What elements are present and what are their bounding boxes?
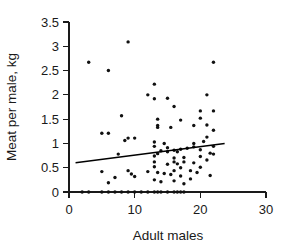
data-point xyxy=(172,156,175,159)
data-point xyxy=(208,151,211,154)
data-point xyxy=(133,190,136,193)
data-point xyxy=(156,126,159,129)
y-tick-label: 1.5 xyxy=(41,112,59,127)
data-point xyxy=(199,155,202,158)
data-point xyxy=(107,181,110,184)
data-point xyxy=(182,182,185,185)
data-point xyxy=(192,124,195,127)
data-point xyxy=(192,142,195,145)
data-point xyxy=(126,136,129,139)
scatter-chart-figure: 00.511.522.533.5 0102030 Adult males Mea… xyxy=(0,0,288,251)
data-point xyxy=(153,154,156,157)
data-point xyxy=(192,161,195,164)
data-point xyxy=(100,190,103,193)
x-tick-label: 10 xyxy=(127,202,141,217)
data-point xyxy=(176,190,179,193)
data-point xyxy=(107,69,110,72)
data-point xyxy=(179,118,182,121)
data-point xyxy=(126,40,129,43)
data-point xyxy=(166,146,169,149)
data-point xyxy=(212,152,215,155)
data-point xyxy=(179,174,182,177)
data-point xyxy=(130,172,133,175)
data-point xyxy=(100,170,103,173)
data-point xyxy=(189,177,192,180)
data-point xyxy=(153,160,156,163)
data-point xyxy=(146,170,149,173)
data-point xyxy=(189,169,192,172)
data-point xyxy=(133,136,136,139)
y-tick-label: 3.5 xyxy=(41,15,59,30)
data-point xyxy=(120,114,123,117)
data-point xyxy=(166,190,169,193)
data-point xyxy=(202,140,205,143)
data-point xyxy=(153,165,156,168)
data-point xyxy=(153,190,156,193)
data-point xyxy=(126,190,129,193)
data-point xyxy=(126,169,129,172)
data-point xyxy=(146,93,149,96)
y-tick-label: 2.5 xyxy=(41,63,59,78)
data-point xyxy=(156,117,159,120)
data-point xyxy=(166,97,169,100)
data-point xyxy=(153,97,156,100)
data-point xyxy=(107,132,110,135)
data-point xyxy=(179,166,182,169)
data-point xyxy=(176,162,179,165)
data-point xyxy=(172,169,175,172)
y-tick-group: 00.511.522.533.5 xyxy=(41,15,69,200)
data-point xyxy=(123,139,126,142)
data-point xyxy=(205,135,208,138)
data-point xyxy=(205,93,208,96)
data-point xyxy=(199,116,202,119)
data-point xyxy=(140,190,143,193)
data-point xyxy=(195,171,198,174)
data-point xyxy=(100,132,103,135)
data-point xyxy=(199,148,202,151)
data-point xyxy=(169,173,172,176)
y-tick-label: 0 xyxy=(52,185,59,200)
data-point xyxy=(172,105,175,108)
data-point xyxy=(172,179,175,182)
data-point xyxy=(212,129,215,132)
y-tick-label: 3 xyxy=(52,39,59,54)
data-point xyxy=(212,61,215,64)
data-point xyxy=(166,163,169,166)
data-point xyxy=(153,140,156,143)
data-point xyxy=(179,190,182,193)
data-point xyxy=(169,126,172,129)
data-point xyxy=(163,172,166,175)
x-axis-group: 0102030 xyxy=(65,192,273,217)
data-point xyxy=(133,175,136,178)
data-point xyxy=(156,190,159,193)
data-point xyxy=(199,166,202,169)
data-point xyxy=(146,190,149,193)
x-tick-group: 0102030 xyxy=(65,192,273,217)
data-point xyxy=(80,190,83,193)
y-tick-label: 1 xyxy=(52,136,59,151)
data-point xyxy=(205,123,208,126)
data-point xyxy=(117,152,120,155)
x-tick-label: 20 xyxy=(193,202,207,217)
data-point xyxy=(159,190,162,193)
data-point xyxy=(172,160,175,163)
data-point xyxy=(87,190,90,193)
data-point xyxy=(153,178,156,181)
data-point xyxy=(153,82,156,85)
data-point xyxy=(107,190,110,193)
y-tick-label: 0.5 xyxy=(41,160,59,175)
data-point xyxy=(182,156,185,159)
data-point xyxy=(208,174,211,177)
data-point xyxy=(113,190,116,193)
data-point xyxy=(113,176,116,179)
data-point xyxy=(87,61,90,64)
data-point xyxy=(153,145,156,148)
x-axis-title: Adult males xyxy=(133,228,204,243)
data-point xyxy=(182,160,185,163)
data-point xyxy=(156,171,159,174)
data-point xyxy=(182,190,185,193)
data-point xyxy=(205,158,208,161)
x-tick-label: 30 xyxy=(259,202,273,217)
regression-trend-line xyxy=(76,143,225,162)
y-tick-label: 2 xyxy=(52,87,59,102)
